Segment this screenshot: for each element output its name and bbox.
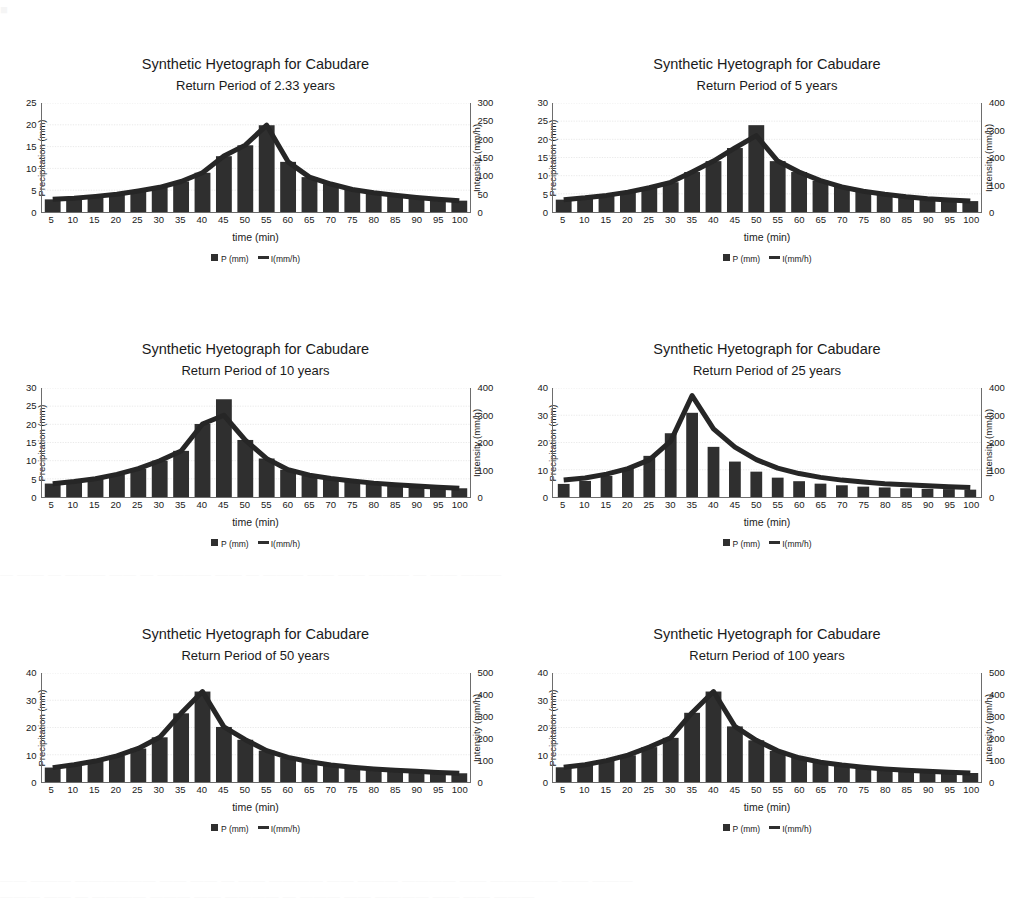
legend-label-intensity: I(mm/h) xyxy=(782,254,811,264)
chart-title: Synthetic Hyetograph for Cabudare xyxy=(511,54,1023,74)
legend-label-precipitation: P (mm) xyxy=(733,824,761,834)
x-axis-ticks: 5101520253035404550556065707580859095100 xyxy=(552,498,982,513)
y-tick-right: 0 xyxy=(478,208,483,218)
y-tick-right: 300 xyxy=(989,411,1005,421)
x-tick: 80 xyxy=(368,785,379,795)
bar xyxy=(558,484,570,497)
bar xyxy=(727,726,743,782)
chart-title: Synthetic Hyetograph for Cabudare xyxy=(0,54,511,74)
x-tick: 40 xyxy=(708,785,719,795)
x-tick: 5 xyxy=(49,215,54,225)
bar xyxy=(663,738,679,782)
x-tick: 60 xyxy=(282,500,293,510)
x-tick: 75 xyxy=(347,500,358,510)
y-tick-left: 5 xyxy=(543,190,548,200)
legend-line-swatch-icon xyxy=(258,256,269,259)
chart-subtitle: Return Period of 2.33 years xyxy=(0,76,511,95)
x-tick: 45 xyxy=(729,500,740,510)
plot-canvas xyxy=(552,388,982,498)
y-tick-left: 40 xyxy=(537,383,548,393)
x-tick: 100 xyxy=(452,785,468,795)
y-tick-right: 400 xyxy=(989,98,1005,108)
chart-title: Synthetic Hyetograph for Cabudare xyxy=(0,624,511,644)
x-tick: 5 xyxy=(560,785,565,795)
legend-label-precipitation: P (mm) xyxy=(733,539,761,549)
bar xyxy=(879,487,891,497)
y-tick-right: 100 xyxy=(478,466,494,476)
intensity-line xyxy=(564,136,971,201)
x-tick: 80 xyxy=(880,500,891,510)
bar xyxy=(151,187,167,212)
x-tick: 35 xyxy=(686,500,697,510)
x-tick: 75 xyxy=(347,215,358,225)
x-tick: 85 xyxy=(901,785,912,795)
x-tick: 25 xyxy=(132,785,143,795)
chart-grid: Synthetic Hyetograph for CabudareReturn … xyxy=(0,40,1023,901)
chart-title: Synthetic Hyetograph for Cabudare xyxy=(511,339,1023,359)
y-tick-right: 100 xyxy=(989,466,1005,476)
x-tick: 75 xyxy=(858,215,869,225)
y-tick-left: 25 xyxy=(26,402,37,412)
x-tick: 65 xyxy=(304,215,315,225)
x-tick: 95 xyxy=(944,500,955,510)
x-tick: 10 xyxy=(579,500,590,510)
chart-title-block: Synthetic Hyetograph for CabudareReturn … xyxy=(511,610,1023,665)
y-tick-left: 20 xyxy=(26,120,37,130)
y-tick-right: 200 xyxy=(989,734,1005,744)
bar xyxy=(922,489,934,497)
y-tick-left: 25 xyxy=(537,117,548,127)
x-tick: 35 xyxy=(175,215,186,225)
bar xyxy=(706,161,722,212)
x-tick: 50 xyxy=(239,215,250,225)
y-tick-left: 30 xyxy=(537,411,548,421)
bar xyxy=(708,447,720,497)
y-tick-right: 400 xyxy=(989,690,1005,700)
chart-title-block: Synthetic Hyetograph for CabudareReturn … xyxy=(511,40,1023,95)
x-tick: 90 xyxy=(923,785,934,795)
bar xyxy=(943,489,955,497)
y-tick-left: 30 xyxy=(26,383,37,393)
x-tick: 70 xyxy=(837,785,848,795)
y-tick-left: 10 xyxy=(26,457,37,467)
x-tick: 25 xyxy=(643,785,654,795)
plot-area: Precipitation (mm)Intensity (mm/h)010203… xyxy=(552,673,982,783)
legend-label-precipitation: P (mm) xyxy=(221,824,249,834)
bar xyxy=(641,747,657,782)
bar xyxy=(322,184,338,212)
bar xyxy=(173,713,189,782)
chart-hyetograph-2-33: Synthetic Hyetograph for CabudareReturn … xyxy=(0,40,511,325)
bar xyxy=(622,468,634,497)
legend-bar-swatch-icon xyxy=(211,254,218,261)
y-tick-right: 400 xyxy=(478,690,494,700)
x-tick: 20 xyxy=(110,500,121,510)
y-tick-right: 50 xyxy=(478,190,489,200)
x-tick: 40 xyxy=(708,215,719,225)
bar xyxy=(727,148,743,212)
y-axis-ticks-left: 010203040 xyxy=(13,673,39,783)
y-tick-left: 10 xyxy=(537,172,548,182)
bar xyxy=(173,451,189,497)
y-tick-left: 20 xyxy=(537,438,548,448)
y-axis-ticks-right: 0100200300400500 xyxy=(986,673,1012,783)
y-tick-right: 100 xyxy=(478,172,494,182)
bar xyxy=(729,462,741,497)
y-tick-right: 200 xyxy=(478,438,494,448)
x-tick: 90 xyxy=(411,785,422,795)
bar xyxy=(834,187,850,212)
y-axis-ticks-left: 051015202530 xyxy=(13,388,39,498)
x-tick: 80 xyxy=(880,215,891,225)
x-tick: 40 xyxy=(196,500,207,510)
bar xyxy=(684,713,700,782)
y-tick-right: 300 xyxy=(989,712,1005,722)
x-tick: 60 xyxy=(794,785,805,795)
x-tick: 90 xyxy=(411,500,422,510)
x-tick: 30 xyxy=(665,500,676,510)
x-tick: 15 xyxy=(600,500,611,510)
chart-title-block: Synthetic Hyetograph for CabudareReturn … xyxy=(0,325,511,380)
y-tick-right: 0 xyxy=(989,778,994,788)
chart-subtitle: Return Period of 50 years xyxy=(0,646,511,665)
chart-legend: P (mm)I(mm/h) xyxy=(41,823,471,834)
x-tick: 95 xyxy=(433,500,444,510)
x-tick: 20 xyxy=(110,215,121,225)
x-tick: 65 xyxy=(304,500,315,510)
